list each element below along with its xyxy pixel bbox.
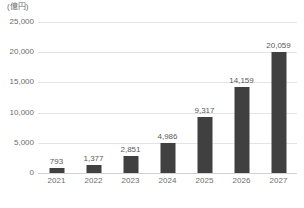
- bar[interactable]: [123, 156, 138, 173]
- bar-slot: 793: [38, 22, 75, 173]
- x-axis-tick-label: 2023: [122, 176, 140, 186]
- y-axis-unit-label: (億円): [7, 2, 28, 12]
- y-axis-tick-label: 0: [0, 169, 34, 177]
- bar-value-label: 2,851: [120, 145, 140, 154]
- bar-value-label: 9,317: [194, 106, 214, 115]
- bar[interactable]: [234, 87, 249, 173]
- bar-slot: 1,377: [75, 22, 112, 173]
- x-axis-tick-label: 2024: [159, 176, 177, 186]
- bar-slot: 14,159: [223, 22, 260, 173]
- y-axis-tick-label: 20,000: [0, 48, 34, 56]
- bar-slot: 4,986: [149, 22, 186, 173]
- bar[interactable]: [160, 143, 175, 173]
- y-axis-tick-label: 25,000: [0, 18, 34, 26]
- bar-slot: 2,851: [112, 22, 149, 173]
- bar-value-label: 4,986: [157, 132, 177, 141]
- x-axis-tick-label: 2026: [233, 176, 251, 186]
- x-axis-tick-label: 2027: [270, 176, 288, 186]
- bars-layer: 7931,3772,8514,9869,31714,15920,059: [38, 22, 297, 173]
- gridline: [38, 173, 297, 174]
- y-axis-tick-label: 5,000: [0, 139, 34, 147]
- x-axis-tick-label: 2021: [48, 176, 66, 186]
- x-axis-tick-label: 2022: [85, 176, 103, 186]
- bar-value-label: 14,159: [229, 76, 253, 85]
- bar-value-label: 1,377: [83, 154, 103, 163]
- bar[interactable]: [197, 117, 212, 173]
- y-axis: 25,00020,00015,00010,0005,0000: [0, 22, 34, 173]
- bar-slot: 20,059: [260, 22, 297, 173]
- bar-value-label: 20,059: [266, 41, 290, 50]
- bar[interactable]: [271, 52, 286, 173]
- bar[interactable]: [49, 168, 64, 173]
- x-axis-tick-label: 2025: [196, 176, 214, 186]
- bar-chart: (億円) 25,00020,00015,00010,0005,0000 7931…: [0, 0, 304, 208]
- y-axis-tick-label: 15,000: [0, 78, 34, 86]
- bar-slot: 9,317: [186, 22, 223, 173]
- y-axis-tick-label: 10,000: [0, 109, 34, 117]
- bar-value-label: 793: [50, 157, 63, 166]
- bar[interactable]: [86, 165, 101, 173]
- x-axis: 2021202220232024202520262027: [38, 176, 297, 190]
